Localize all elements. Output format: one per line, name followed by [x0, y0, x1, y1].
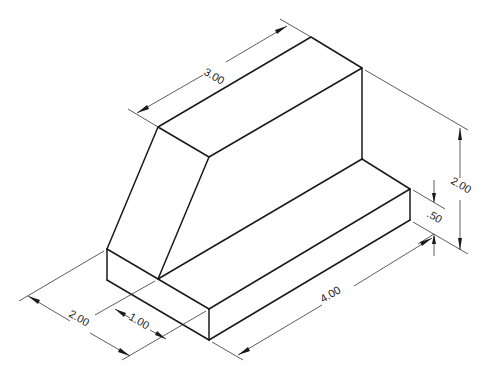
- upper-top-face: [158, 37, 362, 157]
- dimension-upper-offset: 1.00: [95, 281, 166, 339]
- isometric-part-drawing: 3.00 2.00 .50 4.00 2.00: [0, 0, 487, 378]
- dim-label-overall-height: 2.00: [449, 174, 474, 195]
- base-bottom-right-edge: [209, 220, 410, 340]
- dim-label-overall-depth: 2.00: [67, 307, 92, 328]
- dim-label-base-length: 4.00: [318, 284, 343, 305]
- base-top-back-edge: [362, 159, 410, 189]
- dim-label-base-height: .50: [425, 207, 444, 225]
- base-bottom-front-edge: [107, 280, 209, 340]
- dim-label-upper-offset: 1.00: [127, 310, 152, 331]
- dimension-base-length: 4.00: [212, 238, 432, 360]
- slant-left-edge: [107, 127, 158, 249]
- upper-base-junction: [158, 159, 362, 279]
- dim-label-top-length: 3.00: [202, 65, 227, 86]
- dimension-top-length: 3.00: [128, 19, 311, 127]
- slant-right-edge: [158, 157, 209, 279]
- base-top-right-edge: [209, 189, 410, 309]
- dimension-overall-height: 2.00: [365, 70, 474, 254]
- part-outline: [107, 37, 410, 340]
- dimension-base-height: .50: [413, 180, 445, 256]
